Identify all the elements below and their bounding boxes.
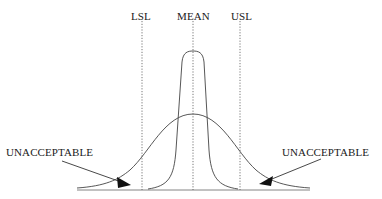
capability-diagram (0, 0, 382, 199)
mean-label: MEAN (177, 10, 210, 22)
left-arrow-head (117, 177, 131, 188)
right-arrow-shaft (267, 159, 321, 181)
wide-distribution-curve (77, 114, 310, 188)
left-arrow-shaft (62, 161, 124, 183)
left-unacceptable-label: UNACCEPTABLE (6, 146, 93, 158)
usl-label: USL (231, 10, 252, 22)
right-unacceptable-label: UNACCEPTABLE (282, 146, 369, 158)
lsl-label: LSL (131, 10, 151, 22)
